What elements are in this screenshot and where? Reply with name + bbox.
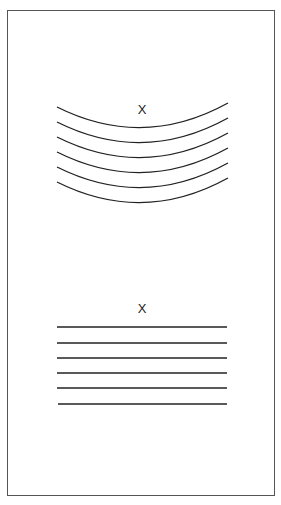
diagram-lines	[0, 0, 281, 505]
straight-wavefronts	[57, 327, 227, 404]
point-x-label-top: X	[138, 102, 147, 117]
curved-wavefronts	[57, 103, 228, 203]
point-x-label-bottom: X	[138, 301, 147, 316]
